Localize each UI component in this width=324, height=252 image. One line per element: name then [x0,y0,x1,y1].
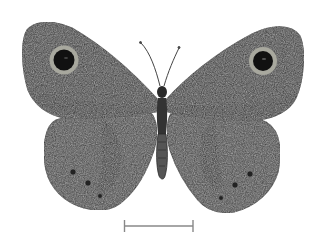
forewing-right [166,27,303,121]
eyespot-right [249,47,277,75]
eyespot-left [50,46,79,75]
antennae [140,42,181,87]
butterfly-body [157,86,168,179]
butterfly-illustration [0,0,324,252]
forewing-left [23,22,158,118]
scale-bar [125,220,194,232]
